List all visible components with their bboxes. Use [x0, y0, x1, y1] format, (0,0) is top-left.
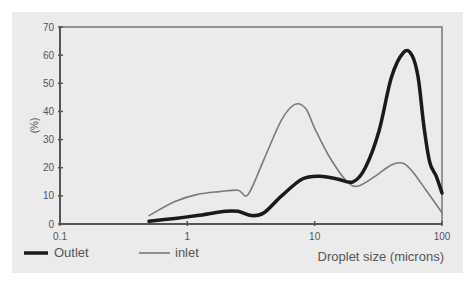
series-inlet-line: [149, 104, 442, 216]
legend-outlet-label: Outlet: [54, 245, 89, 260]
x-tick-label: 1: [185, 231, 191, 242]
legend: Outletinlet: [24, 245, 199, 260]
y-tick-label: 60: [43, 50, 55, 61]
y-axis-label: (%): [29, 118, 40, 134]
x-axis-label: Droplet size (microns): [318, 249, 444, 264]
axes: 0102030405060700.1110100(%)Droplet size …: [29, 22, 451, 265]
chart-figure: 0102030405060700.1110100(%)Droplet size …: [12, 12, 463, 273]
y-tick-label: 0: [48, 219, 54, 230]
x-tick-label: 10: [309, 231, 321, 242]
y-tick-label: 20: [43, 162, 55, 173]
y-tick-label: 30: [43, 134, 55, 145]
line-chart: 0102030405060700.1110100(%)Droplet size …: [12, 12, 463, 273]
series: [149, 50, 442, 221]
x-tick-label: 100: [434, 231, 451, 242]
y-tick-label: 10: [43, 190, 55, 201]
plot-frame: [60, 27, 442, 224]
y-tick-label: 40: [43, 106, 55, 117]
legend-inlet-label: inlet: [175, 245, 199, 260]
x-tick-label: 0.1: [53, 231, 67, 242]
y-tick-label: 70: [43, 22, 55, 33]
y-tick-label: 50: [43, 78, 55, 89]
